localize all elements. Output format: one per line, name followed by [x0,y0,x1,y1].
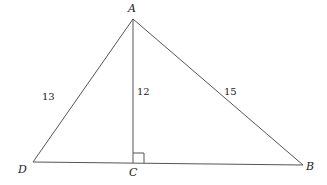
vertex-label-d: D [17,163,27,176]
triangle-diagram: A D C B 13 12 15 [0,0,327,185]
length-label-ac: 12 [137,86,150,97]
vertex-label-a: A [127,2,136,15]
right-angle-marker [133,153,144,163]
vertex-label-b: B [305,160,314,173]
vertex-label-c: C [129,166,138,179]
segment-db [33,162,303,165]
length-label-ab: 15 [224,86,237,97]
length-label-ad: 13 [42,91,55,102]
segment-ab [133,19,303,165]
